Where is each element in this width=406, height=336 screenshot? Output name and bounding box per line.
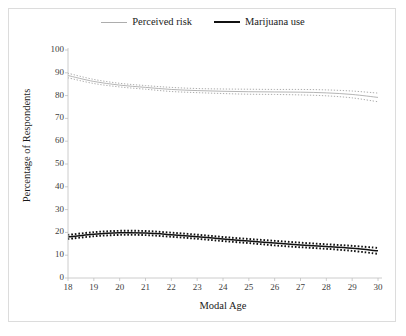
x-tick-label: 24 xyxy=(211,283,235,292)
x-tick-label: 26 xyxy=(263,283,287,292)
x-tick-label: 19 xyxy=(82,283,106,292)
x-tick-label: 23 xyxy=(185,283,209,292)
x-tick-label: 21 xyxy=(134,283,158,292)
x-axis-title: Modal Age xyxy=(68,300,378,311)
x-tick-label: 28 xyxy=(314,283,338,292)
x-tick-label: 30 xyxy=(366,283,390,292)
x-tick-label: 29 xyxy=(340,283,364,292)
x-tick-label: 20 xyxy=(108,283,132,292)
x-axis-ticks: 18192021222324252627282930 xyxy=(0,0,406,336)
y-axis-title: Percentage of Respondents xyxy=(21,36,32,256)
figure: Perceived risk Marijuana use 10090807060… xyxy=(0,0,406,336)
x-tick-label: 25 xyxy=(237,283,261,292)
x-tick-label: 18 xyxy=(56,283,80,292)
x-tick-label: 27 xyxy=(289,283,313,292)
x-tick-label: 22 xyxy=(159,283,183,292)
